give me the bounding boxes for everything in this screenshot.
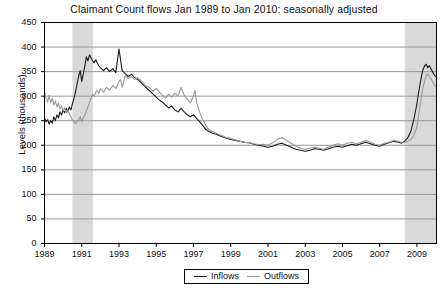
axis-ticks xyxy=(41,23,417,248)
chart-legend: Inflows Outflows xyxy=(184,269,309,284)
series-line-outflows xyxy=(45,74,436,149)
legend-swatch-inflows xyxy=(194,276,207,277)
gridlines xyxy=(45,23,437,219)
plot-frame xyxy=(45,23,437,244)
claimant-count-chart: Claimant Count flows Jan 1989 to Jan 201… xyxy=(0,0,448,290)
plot-area xyxy=(0,0,448,290)
legend-entry-inflows: Inflows xyxy=(194,272,239,281)
data-series xyxy=(45,49,436,151)
legend-label-inflows: Inflows xyxy=(211,272,239,281)
legend-entry-outflows: Outflows xyxy=(247,272,299,281)
legend-swatch-outflows xyxy=(247,276,260,277)
shaded-bands xyxy=(72,23,436,244)
series-line-inflows xyxy=(45,49,436,151)
legend-label-outflows: Outflows xyxy=(264,272,299,281)
